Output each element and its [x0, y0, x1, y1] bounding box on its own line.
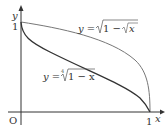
y-tick-1: 1 [12, 21, 18, 32]
graph: y 1 O 1 x y = 1 − x y = 4 1 − x [0, 0, 166, 132]
curve-upper [21, 22, 150, 112]
svg-text:1 − x: 1 − x [68, 71, 95, 82]
label-lower: y = 4 1 − x [42, 68, 95, 82]
x-axis-label: x [155, 113, 161, 124]
x-tick-1: 1 [146, 116, 152, 127]
y-axis-arrow-icon [19, 5, 24, 11]
svg-text:x: x [129, 23, 135, 34]
svg-text:y =: y = [42, 71, 60, 82]
svg-text:1 −: 1 − [103, 23, 121, 34]
y-axis-label: y [11, 10, 18, 21]
svg-text:y =: y = [77, 23, 95, 34]
x-axis-arrow-icon [160, 110, 165, 115]
origin-label: O [9, 115, 17, 126]
label-upper: y = 1 − x [77, 20, 138, 34]
svg-text:4: 4 [61, 68, 64, 74]
